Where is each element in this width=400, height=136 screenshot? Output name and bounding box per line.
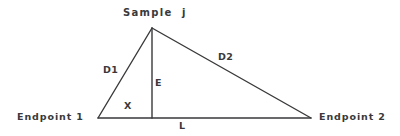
- label-endpoint-1: Endpoint 1: [17, 112, 84, 122]
- label-x: X: [124, 101, 132, 111]
- label-endpoint-2: Endpoint 2: [319, 112, 386, 122]
- label-l: L: [179, 121, 185, 131]
- diagram-canvas: Sample j Endpoint 1 Endpoint 2 D1 D2 E X…: [0, 0, 400, 136]
- label-d2: D2: [218, 52, 233, 62]
- label-sample-j: Sample j: [123, 8, 187, 18]
- label-e: E: [155, 78, 162, 88]
- label-d1: D1: [103, 65, 118, 75]
- segment-d2-line: [152, 28, 311, 118]
